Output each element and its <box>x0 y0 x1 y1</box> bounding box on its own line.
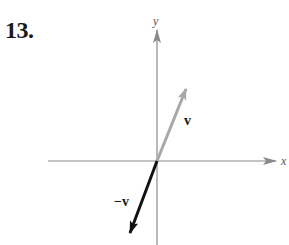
y-axis-label: y <box>152 14 159 28</box>
vector-v-label: v <box>184 113 191 128</box>
x-axis-label: x <box>280 154 287 168</box>
vector-neg-v-label: −v <box>114 194 129 209</box>
vector-neg-v-arrow <box>130 161 157 233</box>
vector-v-arrow <box>157 89 186 161</box>
vector-diagram: x y v −v <box>0 0 289 245</box>
